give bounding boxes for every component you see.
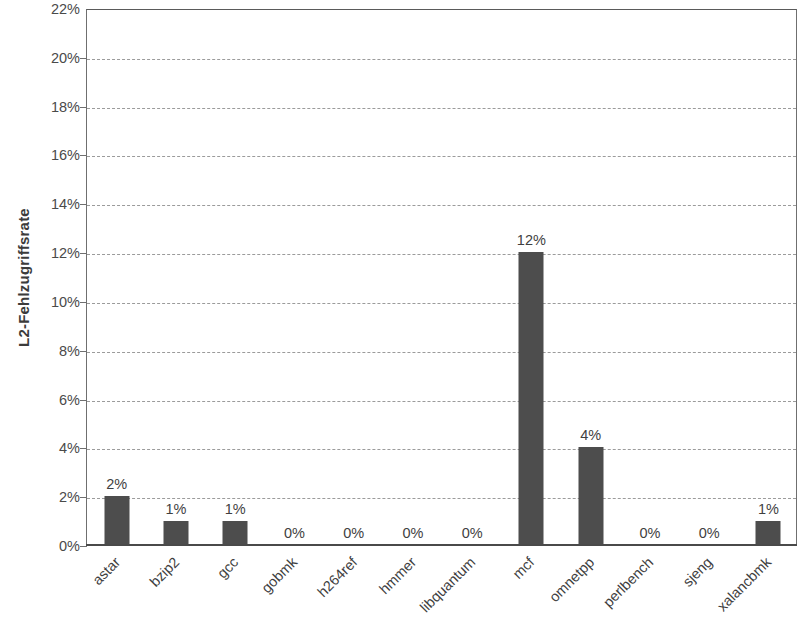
x-axis-label-slot: gobmk: [264, 548, 323, 643]
y-axis-tick-label: 0%: [32, 538, 80, 554]
x-axis-label-slot: perlbench: [619, 548, 678, 643]
x-axis-tick-label-text: bzip2: [146, 554, 182, 590]
y-axis-tick-label: 6%: [32, 392, 80, 408]
bar[interactable]: [519, 252, 544, 545]
bar-slot: 0%: [680, 10, 739, 545]
bar-slot: 0%: [383, 10, 442, 545]
x-axis-tick-label-text: gcc: [214, 554, 241, 581]
bar-value-label: 0%: [402, 525, 423, 541]
y-axis-tick-label: 16%: [32, 147, 80, 163]
x-axis-tick-label-text: astar: [89, 554, 123, 588]
bar-value-label: 0%: [284, 525, 305, 541]
y-axis-tick-label: 8%: [32, 343, 80, 359]
x-axis-tick-label-text: hmmer: [376, 554, 419, 597]
x-axis-label-slot: h264ref: [323, 548, 382, 643]
x-axis-label-slot: libquantum: [442, 548, 501, 643]
y-axis-tick-label: 22%: [32, 1, 80, 17]
x-axis-tick-label-text: mcf: [510, 554, 538, 582]
bar-value-label: 2%: [106, 476, 127, 492]
y-axis-tick-mark: [80, 546, 87, 547]
y-axis-tick-label: 20%: [32, 50, 80, 66]
y-axis-tick-label: 14%: [32, 196, 80, 212]
bar-value-label: 1%: [165, 501, 186, 517]
bar-slot: 0%: [620, 10, 679, 545]
bar-slot: 12%: [502, 10, 561, 545]
y-axis-tick-label: 18%: [32, 99, 80, 115]
y-axis-tick-label: 2%: [32, 489, 80, 505]
bar-value-label: 0%: [343, 525, 364, 541]
x-axis-tick-label-text: gobmk: [259, 554, 301, 596]
bars-layer: 2%1%1%0%0%0%0%12%4%0%0%1%: [87, 10, 796, 545]
y-axis-tick-label: 10%: [32, 294, 80, 310]
bar-value-label: 0%: [462, 525, 483, 541]
bar-value-label: 1%: [225, 501, 246, 517]
bar-slot: 0%: [324, 10, 383, 545]
plot-area: 2%1%1%0%0%0%0%12%4%0%0%1%: [86, 9, 797, 546]
x-axis-label-slot: xalancbmk: [738, 548, 797, 643]
x-axis-label-slot: gcc: [205, 548, 264, 643]
bar[interactable]: [104, 496, 129, 545]
bar-slot: 1%: [206, 10, 265, 545]
x-axis-tick-labels: astarbzip2gccgobmkh264refhmmerlibquantum…: [86, 548, 797, 643]
y-axis-tick-label: 4%: [32, 440, 80, 456]
bar-value-label: 1%: [758, 501, 779, 517]
bar[interactable]: [578, 447, 603, 545]
bar-slot: 1%: [739, 10, 798, 545]
bar-slot: 0%: [443, 10, 502, 545]
x-axis-label-slot: astar: [86, 548, 145, 643]
x-axis-tick-label-text: sjeng: [680, 554, 716, 590]
bar-value-label: 0%: [699, 525, 720, 541]
bar-chart: L2-Fehlzugriffsrate 0%2%4%6%8%10%12%14%1…: [0, 0, 802, 643]
y-axis-tick-label: 12%: [32, 245, 80, 261]
bar-value-label: 12%: [517, 232, 546, 248]
bar-slot: 4%: [561, 10, 620, 545]
y-axis-tick-labels: 0%2%4%6%8%10%12%14%16%18%20%22%: [30, 0, 80, 643]
bar-slot: 2%: [87, 10, 146, 545]
bar-slot: 1%: [146, 10, 205, 545]
x-axis-label-slot: bzip2: [145, 548, 204, 643]
bar-value-label: 4%: [580, 427, 601, 443]
bar-value-label: 0%: [639, 525, 660, 541]
bar-slot: 0%: [265, 10, 324, 545]
